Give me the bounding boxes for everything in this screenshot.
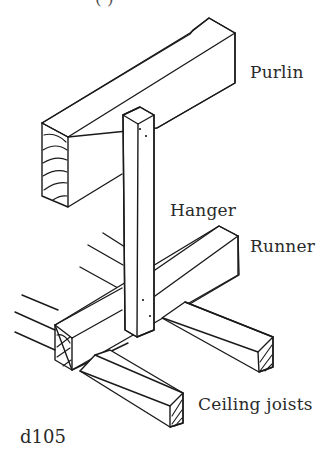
purlin-label: Purlin bbox=[250, 62, 304, 82]
hanger-post bbox=[123, 107, 154, 337]
ceiling-joist-right bbox=[162, 302, 273, 372]
figure-id: d105 bbox=[20, 426, 66, 447]
runner-label: Runner bbox=[250, 236, 315, 256]
ceiling-joists-label: Ceiling joists bbox=[198, 394, 313, 414]
hanger-label: Hanger bbox=[170, 200, 236, 220]
ceiling-joist-front bbox=[80, 350, 183, 427]
